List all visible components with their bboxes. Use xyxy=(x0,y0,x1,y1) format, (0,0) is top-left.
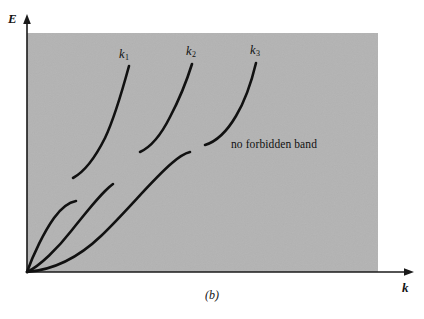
annotation-no-forbidden-band: no forbidden band xyxy=(231,139,317,151)
x-axis-arrowhead xyxy=(404,268,414,276)
band-label-k1-base: k xyxy=(119,47,125,61)
band-label-k2-base: k xyxy=(186,44,192,58)
band-label-k1: k1 xyxy=(119,48,129,61)
band-label-k1-sub: 1 xyxy=(125,53,129,62)
band-label-k2-sub: 2 xyxy=(192,50,196,59)
figure-canvas xyxy=(0,0,424,319)
band-label-k3-sub: 3 xyxy=(256,49,260,58)
figure-caption: (b) xyxy=(0,289,424,301)
band-label-k3: k3 xyxy=(250,44,260,57)
y-axis-arrowhead xyxy=(23,14,31,24)
band-label-k2: k2 xyxy=(186,45,196,58)
panel-grain-texture xyxy=(27,33,378,272)
band-label-k3-base: k xyxy=(250,43,256,57)
y-axis-label: E xyxy=(8,12,17,25)
dispersion-figure: E k k1 k2 k3 no forbidden band (b) xyxy=(0,0,424,319)
